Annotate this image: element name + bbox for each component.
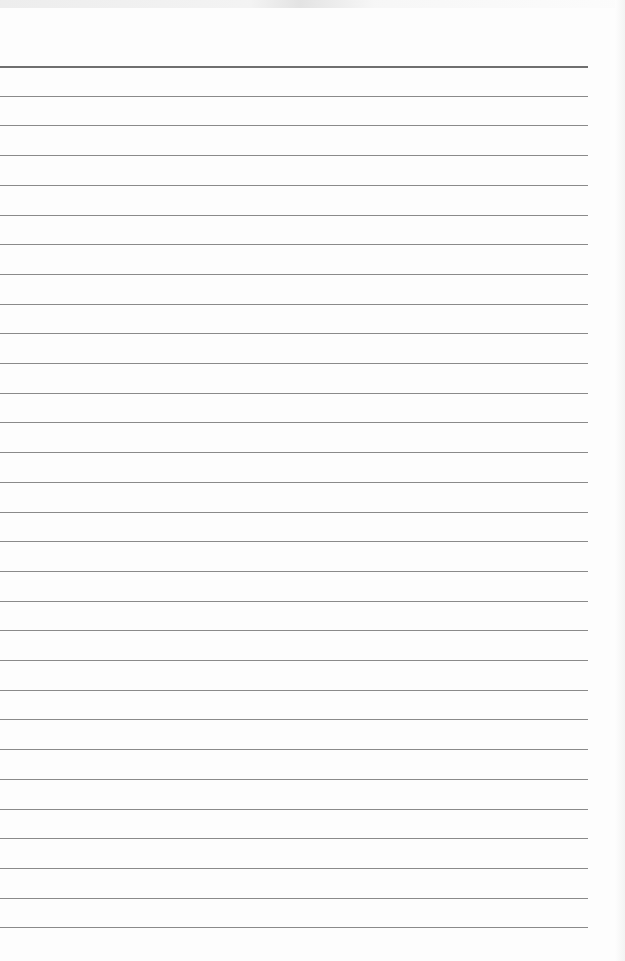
ruled-line <box>0 838 588 839</box>
ruled-line <box>0 779 588 780</box>
ruled-line <box>0 393 588 394</box>
ruled-line <box>0 304 588 305</box>
ruled-line <box>0 452 588 453</box>
ruled-line <box>0 749 588 750</box>
ruled-line <box>0 630 588 631</box>
ruled-line <box>0 898 588 899</box>
ruled-line <box>0 155 588 156</box>
ruled-line <box>0 363 588 364</box>
ruled-line <box>0 125 588 126</box>
ruled-line <box>0 809 588 810</box>
ruled-line <box>0 601 588 602</box>
ruled-line <box>0 215 588 216</box>
ruled-line <box>0 512 588 513</box>
ruled-line <box>0 244 588 245</box>
header-rule-line <box>0 66 588 68</box>
ruled-line <box>0 690 588 691</box>
ruled-line <box>0 660 588 661</box>
page-edge <box>615 0 625 961</box>
ruled-line <box>0 482 588 483</box>
ruled-line <box>0 333 588 334</box>
ruled-line <box>0 927 588 928</box>
ruled-line <box>0 541 588 542</box>
ruled-line <box>0 185 588 186</box>
lined-paper-sheet <box>0 0 625 961</box>
ruled-line <box>0 571 588 572</box>
ruled-line <box>0 868 588 869</box>
ruled-line <box>0 274 588 275</box>
ruled-line <box>0 719 588 720</box>
ruled-line <box>0 422 588 423</box>
ruled-line <box>0 96 588 97</box>
